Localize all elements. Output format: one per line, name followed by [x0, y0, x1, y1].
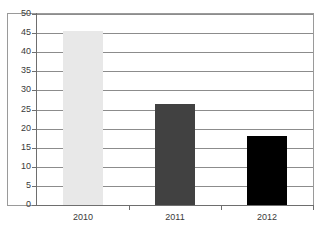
bar-chart: 05101520253035404550 201020112012 [0, 0, 328, 240]
y-axis-tick-labels: 05101520253035404550 [0, 0, 31, 240]
y-tick-label-30: 30 [5, 85, 31, 94]
y-tick-label-20: 20 [5, 124, 31, 133]
x-tick-mark-1 [129, 206, 130, 210]
y-tick-label-45: 45 [5, 28, 31, 37]
y-tick-label-5: 5 [5, 181, 31, 190]
x-category-label-2011: 2011 [129, 212, 221, 222]
bar-2012 [247, 136, 287, 205]
y-tick-label-0: 0 [5, 200, 31, 209]
x-category-label-2012: 2012 [221, 212, 313, 222]
y-tick-label-40: 40 [5, 47, 31, 56]
x-tick-mark-end [313, 206, 314, 210]
y-tick-label-10: 10 [5, 162, 31, 171]
y-tick-label-35: 35 [5, 66, 31, 75]
x-tick-mark-2 [221, 206, 222, 210]
y-tick-label-25: 25 [5, 105, 31, 114]
y-tick-label-15: 15 [5, 143, 31, 152]
plot-area [37, 14, 313, 205]
y-tick-label-50: 50 [5, 9, 31, 18]
x-category-label-2010: 2010 [37, 212, 129, 222]
x-axis-line [36, 205, 314, 206]
gridline-50 [37, 14, 313, 15]
bar-2010 [63, 31, 103, 205]
bar-2011 [155, 104, 195, 205]
